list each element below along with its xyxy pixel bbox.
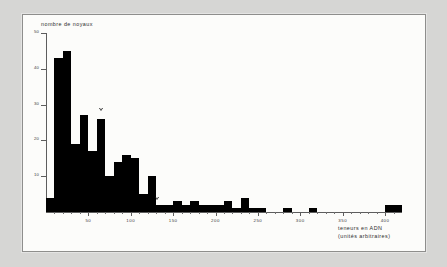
histogram-bar: [173, 201, 181, 212]
histogram-bar: [190, 201, 198, 212]
figure-plate: nombre de noyaux 1020304050 501001502002…: [22, 14, 426, 252]
histogram-bar: [105, 176, 113, 212]
histogram-bar: [309, 208, 317, 212]
histogram-bar: [385, 205, 393, 212]
x-axis-title-line1: teneurs en ADN: [338, 225, 390, 233]
histogram-bar: [156, 205, 164, 212]
histogram-bar: [122, 155, 130, 212]
figure-container: nombre de noyaux 1020304050 501001502002…: [0, 0, 447, 267]
plot-area: nombre de noyaux 1020304050 501001502002…: [23, 15, 425, 251]
histogram-bar: [80, 115, 88, 212]
histogram-bar: [258, 208, 266, 212]
x-axis-title-line2: (unités arbitraires): [338, 233, 390, 241]
histogram-bars: [23, 15, 425, 251]
histogram-bar: [165, 205, 173, 212]
histogram-bar: [131, 158, 139, 212]
histogram-bar: [249, 208, 257, 212]
triangle-down-icon: [155, 197, 159, 200]
histogram-bar: [148, 176, 156, 212]
histogram-bar: [232, 208, 240, 212]
histogram-bar: [63, 51, 71, 212]
histogram-bar: [199, 205, 207, 212]
histogram-bar: [207, 205, 215, 212]
histogram-bar: [97, 119, 105, 212]
histogram-bar: [182, 205, 190, 212]
histogram-bar: [71, 144, 79, 212]
triangle-down-icon: [99, 108, 103, 111]
histogram-bar: [114, 162, 122, 212]
histogram-bar: [241, 198, 249, 212]
histogram-bar: [139, 194, 147, 212]
histogram-bar: [54, 58, 62, 212]
histogram-bar: [224, 201, 232, 212]
histogram-bar: [283, 208, 291, 212]
histogram-bar: [394, 205, 402, 212]
histogram-bar: [88, 151, 96, 212]
histogram-bar: [216, 205, 224, 212]
x-axis-title: teneurs en ADN (unités arbitraires): [338, 225, 390, 240]
histogram-bar: [46, 198, 54, 212]
